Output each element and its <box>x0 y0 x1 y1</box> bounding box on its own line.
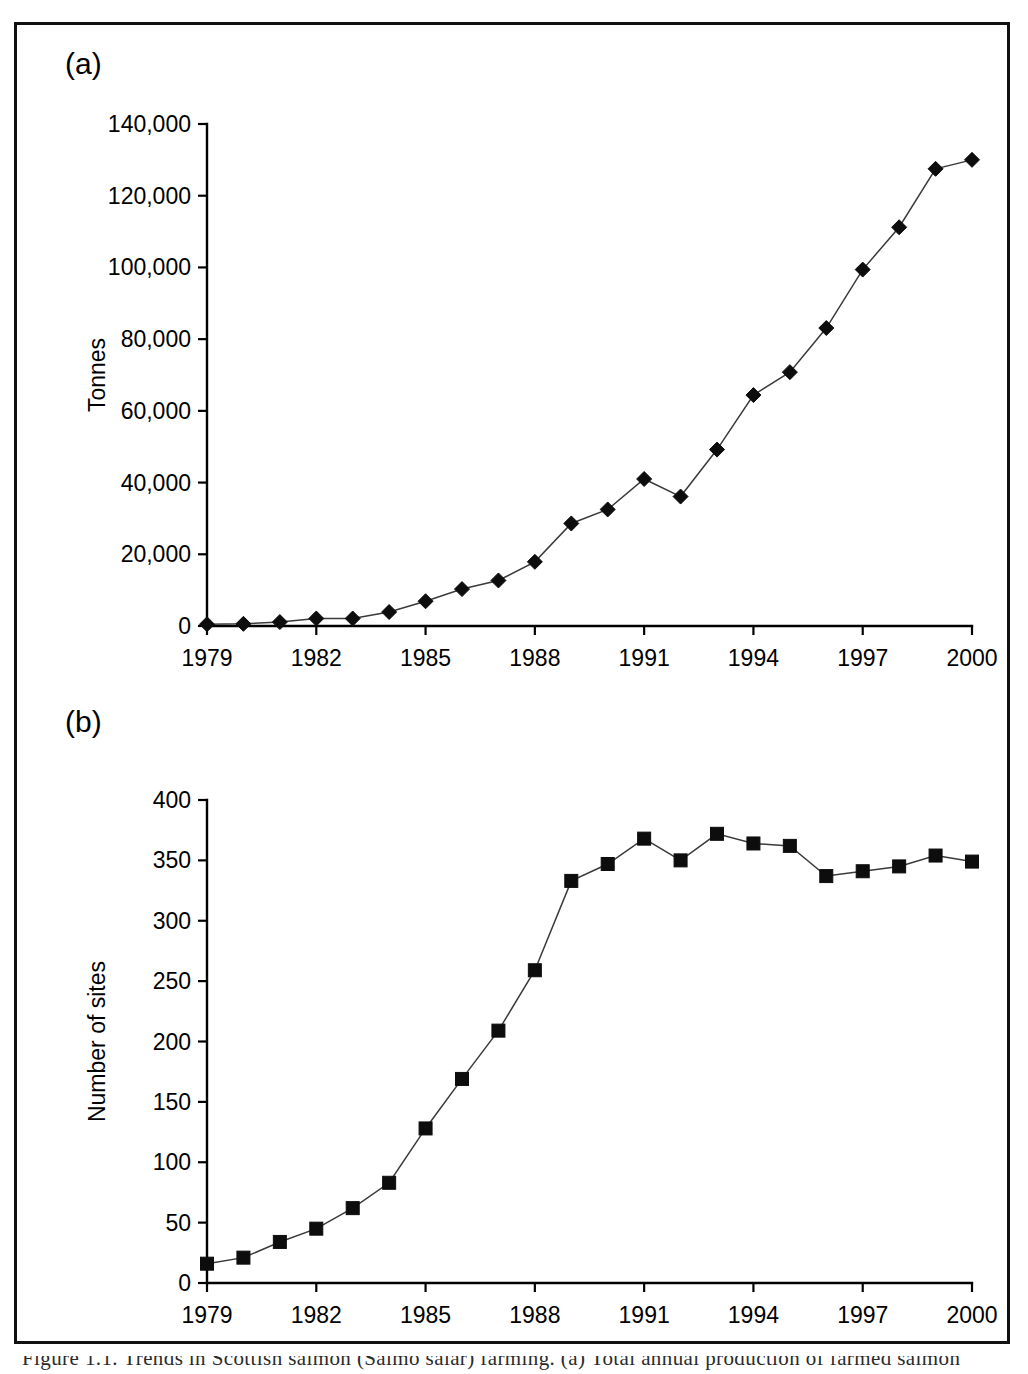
figure-frame: (a) 020,00040,00060,00080,000100,000120,… <box>14 22 1010 1344</box>
data-point-marker <box>382 605 397 620</box>
x-tick-label: 1979 <box>181 645 232 671</box>
data-point-marker <box>310 1222 323 1235</box>
data-point-marker <box>673 489 688 504</box>
y-tick-label: 100 <box>153 1149 191 1175</box>
y-axis-title: Tonnes <box>84 338 110 412</box>
data-point-marker <box>491 573 506 588</box>
x-tick-label: 1979 <box>181 1302 232 1328</box>
chart-panel-a: (a) 020,00040,00060,00080,000100,000120,… <box>17 25 1007 685</box>
data-point-marker <box>383 1176 396 1189</box>
y-tick-label: 80,000 <box>121 326 191 352</box>
y-tick-label: 120,000 <box>108 183 191 209</box>
y-tick-label: 200 <box>153 1029 191 1055</box>
data-point-marker <box>710 442 725 457</box>
y-tick-label: 100,000 <box>108 254 191 280</box>
data-point-marker <box>601 857 614 870</box>
x-tick-label: 1994 <box>728 645 779 671</box>
data-point-marker <box>201 1257 214 1270</box>
chart-b-plot-area: 0501001502002503003504001979198219851988… <box>17 685 1013 1345</box>
data-point-marker <box>309 611 324 626</box>
data-point-marker <box>528 964 541 977</box>
figure-caption: Figure 1.1. Trends in Scottish salmon (S… <box>22 1356 1022 1371</box>
x-tick-label: 1997 <box>837 1302 888 1328</box>
x-tick-label: 1997 <box>837 645 888 671</box>
data-point-marker <box>674 854 687 867</box>
data-point-marker <box>455 582 470 597</box>
data-point-marker <box>346 1202 359 1215</box>
data-point-marker <box>711 827 724 840</box>
x-tick-label: 1988 <box>509 645 560 671</box>
y-tick-label: 60,000 <box>121 398 191 424</box>
data-point-marker <box>783 839 796 852</box>
data-point-marker <box>856 865 869 878</box>
y-tick-label: 300 <box>153 908 191 934</box>
data-point-marker <box>746 388 761 403</box>
x-tick-label: 1985 <box>400 645 451 671</box>
y-tick-label: 400 <box>153 787 191 813</box>
data-point-marker <box>418 594 433 609</box>
y-tick-label: 350 <box>153 847 191 873</box>
data-point-marker <box>929 849 942 862</box>
data-point-marker <box>965 152 980 167</box>
chart-a-plot-area: 020,00040,00060,00080,000100,000120,0001… <box>17 25 1013 685</box>
y-tick-label: 0 <box>178 1270 191 1296</box>
data-point-marker <box>456 1072 469 1085</box>
x-tick-label: 1994 <box>728 1302 779 1328</box>
x-tick-label: 1991 <box>619 1302 670 1328</box>
y-tick-label: 250 <box>153 968 191 994</box>
y-tick-label: 50 <box>165 1210 191 1236</box>
data-point-marker <box>893 860 906 873</box>
x-tick-label: 1985 <box>400 1302 451 1328</box>
x-tick-label: 1991 <box>619 645 670 671</box>
y-tick-label: 20,000 <box>121 541 191 567</box>
series-line <box>207 834 972 1264</box>
x-tick-label: 2000 <box>946 1302 997 1328</box>
chart-panel-b: (b) 050100150200250300350400197919821985… <box>17 685 1007 1345</box>
data-point-marker <box>200 617 215 632</box>
data-point-marker <box>565 874 578 887</box>
data-point-marker <box>345 611 360 626</box>
data-point-marker <box>928 161 943 176</box>
y-tick-label: 40,000 <box>121 470 191 496</box>
series-line <box>207 160 972 624</box>
data-point-marker <box>638 832 651 845</box>
data-point-marker <box>492 1024 505 1037</box>
y-tick-label: 140,000 <box>108 111 191 137</box>
data-point-marker <box>237 1251 250 1264</box>
x-tick-label: 2000 <box>946 645 997 671</box>
data-point-marker <box>419 1122 432 1135</box>
x-tick-label: 1982 <box>291 1302 342 1328</box>
data-point-marker <box>820 870 833 883</box>
data-point-marker <box>747 837 760 850</box>
data-point-marker <box>273 1235 286 1248</box>
data-point-marker <box>272 615 287 630</box>
x-tick-label: 1988 <box>509 1302 560 1328</box>
y-axis-title: Number of sites <box>84 961 110 1122</box>
y-tick-label: 150 <box>153 1089 191 1115</box>
data-point-marker <box>966 855 979 868</box>
figure-caption-strip: Figure 1.1. Trends in Scottish salmon (S… <box>0 1356 1028 1374</box>
x-tick-label: 1982 <box>291 645 342 671</box>
data-point-marker <box>236 616 251 631</box>
y-tick-label: 0 <box>178 613 191 639</box>
